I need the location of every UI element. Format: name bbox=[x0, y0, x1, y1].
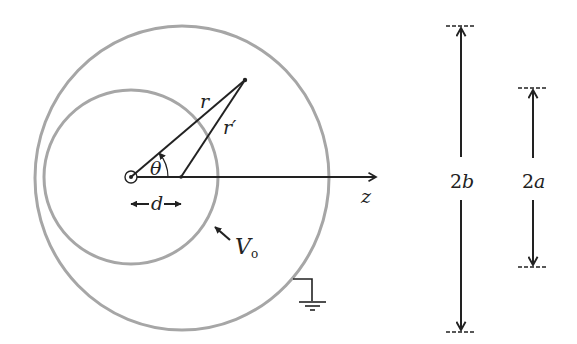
2b-label: 2b bbox=[450, 170, 474, 192]
d-dimension: d bbox=[131, 192, 181, 214]
r-label: r bbox=[200, 90, 211, 112]
r-prime-label: r′ bbox=[223, 116, 237, 138]
ground-icon bbox=[293, 279, 326, 310]
2a-label: 2a bbox=[522, 170, 545, 192]
2b-dimension: 2b bbox=[446, 26, 476, 332]
v0-label: Vo bbox=[235, 234, 258, 261]
v0-pointer: Vo bbox=[215, 227, 258, 261]
theta-label: θ bbox=[150, 157, 162, 179]
eccentric-spheres-diagram: r r′ θ d z Vo 2b 2a bbox=[0, 0, 577, 344]
2a-dimension: 2a bbox=[518, 88, 548, 267]
d-label: d bbox=[151, 192, 163, 214]
z-label: z bbox=[360, 185, 372, 207]
field-point bbox=[243, 78, 247, 82]
